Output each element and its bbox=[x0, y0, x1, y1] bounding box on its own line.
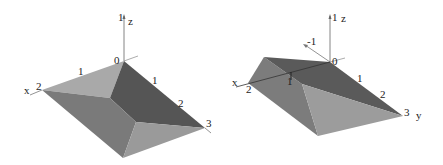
left-x-tick-2: 2 bbox=[36, 80, 42, 92]
left-z-tick-1: 1 bbox=[118, 11, 124, 23]
right-figure: 1 z -1 0 1 2 x 1 2 3 y bbox=[232, 11, 422, 136]
right-origin-label: 0 bbox=[332, 55, 338, 67]
right-neg-axis bbox=[305, 45, 330, 62]
right-x-label: x bbox=[232, 76, 238, 88]
left-face-front-right bbox=[123, 122, 205, 158]
left-z-label: z bbox=[128, 15, 133, 27]
left-axis-stub bbox=[124, 56, 138, 61]
right-x-tick-2: 2 bbox=[246, 83, 252, 95]
right-y-label: y bbox=[416, 109, 422, 121]
left-y-tick-3: 3 bbox=[206, 117, 212, 129]
left-origin-label: 0 bbox=[114, 54, 120, 66]
left-y-tick-1: 1 bbox=[152, 74, 158, 86]
right-y-tick-1: 1 bbox=[357, 72, 363, 84]
left-figure: 1 z 0 1 2 x 1 2 3 bbox=[24, 11, 212, 158]
right-z-tick-1: 1 bbox=[332, 11, 338, 23]
left-x-tick-1: 1 bbox=[78, 65, 84, 77]
right-x-tick-1: 1 bbox=[287, 75, 293, 87]
left-y-tick-2: 2 bbox=[178, 97, 184, 109]
diagram-canvas: 1 z 0 1 2 x 1 2 3 1 z -1 0 1 2 x 1 2 3 bbox=[0, 0, 443, 165]
right-neg-tick: -1 bbox=[307, 35, 316, 47]
left-x-label: x bbox=[24, 84, 30, 96]
right-y-tick-2: 2 bbox=[380, 88, 386, 100]
right-z-label: z bbox=[341, 12, 346, 24]
right-y-tick-3: 3 bbox=[404, 106, 410, 118]
